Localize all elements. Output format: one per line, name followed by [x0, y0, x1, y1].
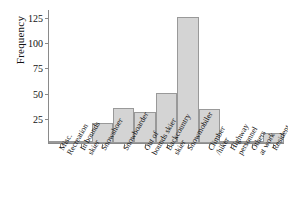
- y-tick-label: 25: [33, 113, 43, 124]
- y-tick-label: 75: [33, 63, 43, 74]
- frequency-bar-chart: Frequency 255075100125 Misc.RecreationIn…: [0, 0, 288, 215]
- y-tick-label: 125: [28, 13, 43, 24]
- y-tick-label: 50: [33, 88, 43, 99]
- x-axis-labels: Misc.RecreationIn boundsskierSnowshoerSn…: [48, 148, 288, 215]
- y-axis-title: Frequency: [14, 0, 26, 90]
- y-tick-label: 100: [28, 38, 43, 49]
